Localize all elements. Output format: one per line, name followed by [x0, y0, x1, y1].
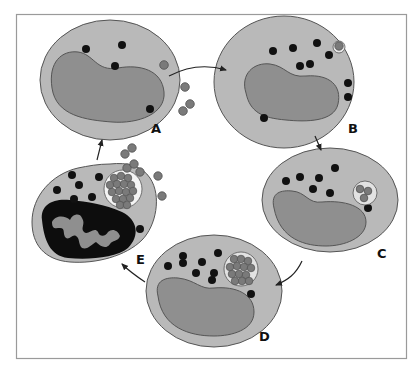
stage-label-a: A: [151, 121, 161, 136]
phagocytosis-cycle-diagram: A B C D E: [0, 0, 419, 365]
stage-label-e: E: [136, 252, 145, 267]
cell-d-phagosome: [224, 252, 258, 286]
cell-b: [214, 16, 354, 148]
diagram-canvas: A B C D E: [0, 0, 419, 365]
cell-e-ruptured-phagosome: [104, 170, 142, 209]
stage-label-d: D: [259, 329, 270, 344]
cell-c: [262, 148, 398, 252]
stage-label-c: C: [377, 246, 387, 261]
cell-c-phagosome: [353, 181, 377, 205]
cell-b-attaching-bacterium: [333, 41, 345, 53]
stage-label-b: B: [348, 121, 358, 136]
